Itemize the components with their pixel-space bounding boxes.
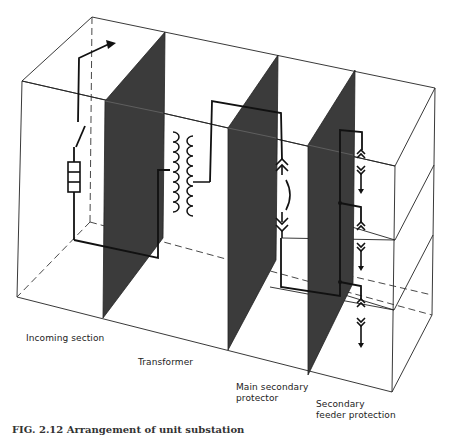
panel-3 <box>308 70 355 375</box>
label-incoming-section: Incoming section <box>26 333 104 344</box>
divider-panels <box>103 32 355 375</box>
fuse-icon <box>68 162 80 192</box>
cable-termination-icon <box>106 40 116 49</box>
label-secondary-feeder-protection: Secondary feeder protection <box>316 399 396 421</box>
panel-1 <box>103 32 165 318</box>
label-main-secondary-protector: Main secondary protector <box>236 382 308 404</box>
breaker-contacts-icon <box>276 159 290 238</box>
transformer-windings-icon <box>173 132 210 216</box>
label-transformer: Transformer <box>138 357 193 368</box>
panel-2 <box>228 55 278 350</box>
feeder-contacts-icon <box>357 150 365 344</box>
figure-caption: FIG. 2.12 Arrangement of unit substation <box>12 424 244 435</box>
